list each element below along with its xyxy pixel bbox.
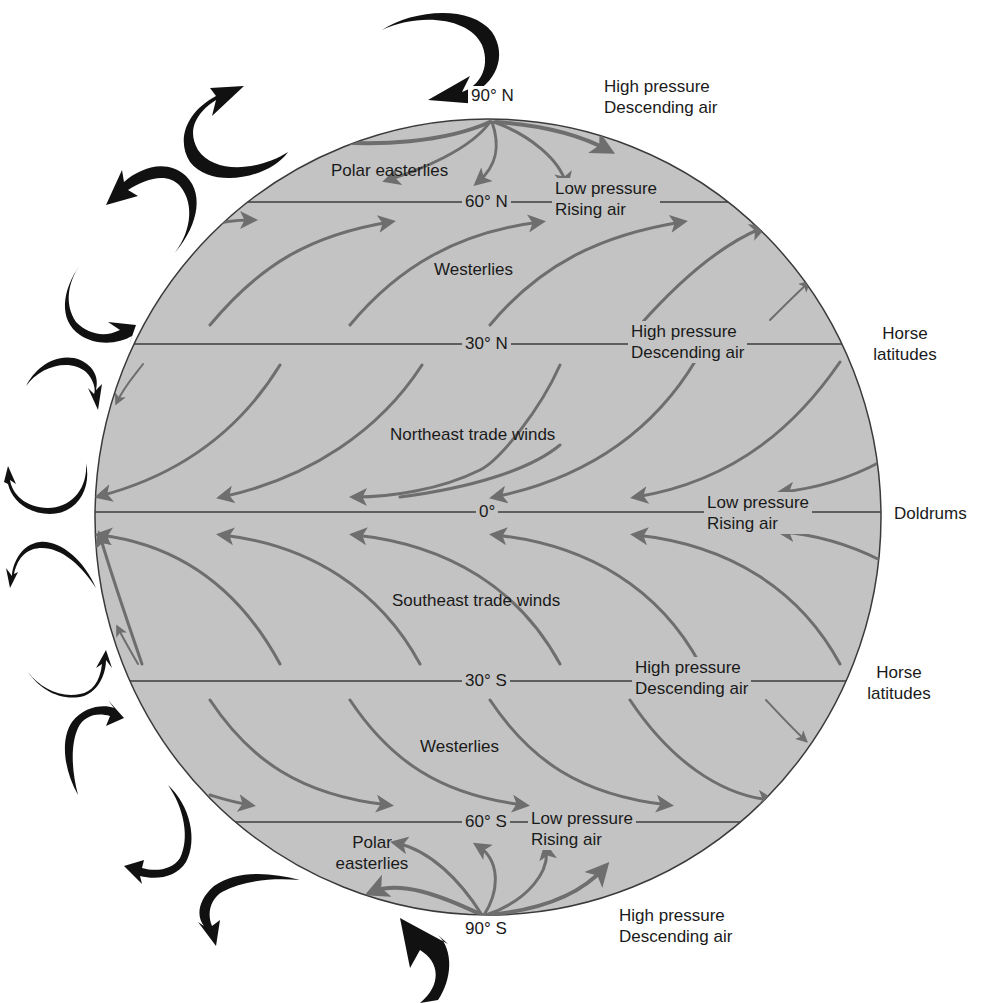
label-horse-latitudes-south-line2: latitudes xyxy=(856,683,942,704)
pressure-label-south-pole-line1: High pressure xyxy=(619,905,732,926)
pressure-label-30s: High pressure Descending air xyxy=(632,657,751,699)
curved-arrow-icon xyxy=(124,785,192,884)
pressure-label-equator-line2: Rising air xyxy=(707,513,809,534)
label-westerlies-north: Westerlies xyxy=(434,259,513,280)
label-horse-latitudes-south-line1: Horse xyxy=(856,662,942,683)
curved-arrow-icon xyxy=(184,86,288,178)
pressure-label-30s-line2: Descending air xyxy=(635,678,748,699)
latitude-label-60n: 60° N xyxy=(462,192,511,212)
curved-arrow-icon xyxy=(28,650,112,698)
curved-arrow-icon xyxy=(26,357,102,410)
pressure-label-60n-line1: Low pressure xyxy=(555,178,657,199)
label-polar-easterlies-north: Polar easterlies xyxy=(331,160,448,181)
label-polar-easterlies-south: Polar easterlies xyxy=(332,832,412,874)
pressure-label-south-pole-line2: Descending air xyxy=(619,926,732,947)
label-northeast-trade-winds: Northeast trade winds xyxy=(390,424,555,445)
label-doldrums: Doldrums xyxy=(894,503,967,524)
pressure-label-equator: Low pressure Rising air xyxy=(704,492,812,534)
curved-arrow-icon xyxy=(65,265,136,348)
latitude-label-equator: 0° xyxy=(476,502,498,522)
latitude-label-30n: 30° N xyxy=(462,334,511,354)
pressure-label-60n: Low pressure Rising air xyxy=(552,178,660,220)
curved-arrow-icon xyxy=(4,463,87,514)
label-horse-latitudes-north-line2: latitudes xyxy=(862,344,948,365)
pressure-label-south-pole: High pressure Descending air xyxy=(619,905,732,947)
pressure-label-30n: High pressure Descending air xyxy=(628,321,747,363)
curved-arrow-icon xyxy=(106,166,197,256)
pressure-label-equator-line1: Low pressure xyxy=(707,492,809,513)
label-southeast-trade-winds: Southeast trade winds xyxy=(392,590,560,611)
curved-arrow-icon xyxy=(65,700,124,795)
label-horse-latitudes-north: Horse latitudes xyxy=(862,323,948,365)
pressure-label-60s-line1: Low pressure xyxy=(531,808,633,829)
curved-arrow-icon xyxy=(198,874,300,946)
label-polar-easterlies-south-line1: Polar xyxy=(332,832,412,853)
latitude-label-90s: 90° S xyxy=(462,919,510,939)
label-horse-latitudes-south: Horse latitudes xyxy=(856,662,942,704)
curved-arrow-icon xyxy=(400,918,449,1003)
latitude-label-60s: 60° S xyxy=(462,812,510,832)
label-westerlies-south: Westerlies xyxy=(420,736,499,757)
pressure-label-60n-line2: Rising air xyxy=(555,199,657,220)
latitude-label-90n: 90° N xyxy=(468,86,517,106)
latitude-label-30s: 30° S xyxy=(462,671,510,691)
pressure-label-60s: Low pressure Rising air xyxy=(528,808,636,850)
pressure-label-60s-line2: Rising air xyxy=(531,829,633,850)
pressure-label-30s-line1: High pressure xyxy=(635,657,748,678)
pressure-label-30n-line1: High pressure xyxy=(631,321,744,342)
pressure-label-north-pole-line1: High pressure xyxy=(604,76,717,97)
curved-arrow-icon xyxy=(6,542,96,588)
label-polar-easterlies-south-line2: easterlies xyxy=(332,853,412,874)
pressure-label-north-pole-line2: Descending air xyxy=(604,97,717,118)
pressure-label-north-pole: High pressure Descending air xyxy=(604,76,717,118)
wind-circulation-diagram: 90° N 60° N 30° N 0° 30° S 60° S 90° S P… xyxy=(0,0,984,1003)
label-horse-latitudes-north-line1: Horse xyxy=(862,323,948,344)
pressure-label-30n-line2: Descending air xyxy=(631,342,744,363)
